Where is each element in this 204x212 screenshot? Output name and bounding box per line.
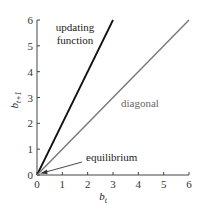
x-tick-label: 1 <box>60 178 66 190</box>
y-tick-label: 1 <box>28 143 34 155</box>
x-tick-label: 6 <box>186 178 192 190</box>
x-tick-label: 2 <box>85 178 91 190</box>
y-tick-label: 4 <box>28 66 34 78</box>
y-tick-label: 3 <box>28 92 34 104</box>
x-axis-label: bt <box>99 190 108 205</box>
ticks: 01234560123456 <box>28 14 193 190</box>
x-tick-label: 0 <box>34 178 40 190</box>
x-tick-label: 5 <box>161 178 167 190</box>
x-tick-label: 3 <box>110 178 116 190</box>
y-axis-label: bt+1 <box>8 91 23 108</box>
plot-area: 01234560123456 updating function diagona… <box>0 0 204 212</box>
y-tick-label: 0 <box>28 169 34 181</box>
diagonal-label: diagonal <box>121 97 159 109</box>
y-tick-label: 5 <box>28 40 34 52</box>
updating-function-label-line1: updating <box>56 21 95 33</box>
x-tick-label: 4 <box>136 178 142 190</box>
updating-function-label-line2: function <box>57 34 94 46</box>
equilibrium-label: equilibrium <box>86 151 138 163</box>
y-tick-label: 6 <box>28 14 34 26</box>
chart: 01234560123456 updating function diagona… <box>0 0 204 212</box>
equilibrium-arrow <box>40 162 82 174</box>
y-tick-label: 2 <box>28 117 34 129</box>
